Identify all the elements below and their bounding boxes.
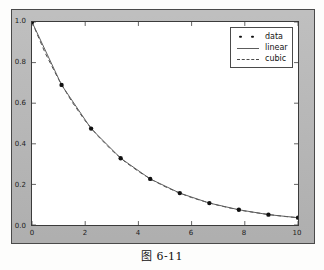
legend-item-cubic: cubic: [235, 53, 287, 64]
legend-solid-line-icon: [235, 42, 261, 53]
legend-label: data: [265, 33, 283, 41]
xtick-label: 0: [30, 230, 34, 237]
xtick-label: 4: [136, 230, 140, 237]
ytick-label: 0.4: [4, 141, 26, 148]
legend-label: linear: [265, 44, 288, 52]
legend-label: cubic: [265, 55, 286, 63]
xtick-label: 8: [242, 230, 246, 237]
plot-area: data linear cubic: [31, 21, 299, 226]
figure-caption: 图 6-11: [0, 247, 324, 263]
xtick-label: 2: [83, 230, 87, 237]
legend-dashed-line-icon: [235, 53, 261, 64]
data-point: [296, 216, 298, 220]
chart-legend: data linear cubic: [230, 27, 293, 68]
ytick-label: 1.0: [4, 18, 26, 25]
xtick-label: 6: [189, 230, 193, 237]
legend-item-linear: linear: [235, 42, 287, 53]
ytick-label: 0.0: [4, 223, 26, 230]
data-point: [266, 212, 270, 216]
data-point: [207, 201, 211, 205]
ytick-label: 0.2: [4, 182, 26, 189]
legend-marker-icon: [235, 31, 261, 42]
data-point: [89, 126, 93, 130]
data-point: [32, 22, 34, 24]
chart-figure: 1.0 0.8 0.6 0.4 0.2 0.0 0 2 4 6 8 10: [11, 9, 315, 244]
legend-item-data: data: [235, 31, 287, 42]
data-point: [178, 191, 182, 195]
data-point: [148, 177, 152, 181]
figure-page: 1.0 0.8 0.6 0.4 0.2 0.0 0 2 4 6 8 10: [0, 0, 324, 270]
data-point: [118, 156, 122, 160]
xtick-label: 10: [293, 230, 302, 237]
ytick-label: 0.6: [4, 100, 26, 107]
data-point: [237, 208, 241, 212]
ytick-label: 0.8: [4, 59, 26, 66]
data-point: [59, 83, 63, 87]
